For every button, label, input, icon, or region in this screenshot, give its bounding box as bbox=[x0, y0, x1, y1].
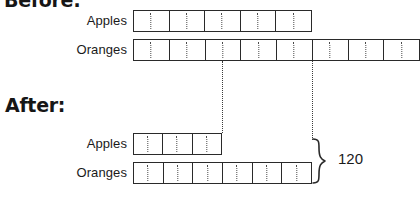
bar-segment bbox=[241, 11, 277, 31]
section-heading-after: After: bbox=[5, 94, 65, 116]
bar-segment bbox=[253, 163, 283, 183]
connector-line-left bbox=[222, 61, 223, 133]
bar-segment bbox=[384, 40, 419, 60]
diagram-canvas: Before: Apples Oranges After: Apples Ora… bbox=[0, 0, 420, 202]
bar-segment bbox=[223, 163, 253, 183]
bar-segment bbox=[241, 40, 277, 60]
row-label-after-apples: Apples bbox=[87, 136, 127, 151]
bar-segment bbox=[205, 11, 241, 31]
bar-segment bbox=[313, 40, 349, 60]
row-label-before-oranges: Oranges bbox=[76, 42, 127, 57]
bar-segment bbox=[170, 40, 206, 60]
bar-segment bbox=[193, 134, 221, 154]
bar-segment bbox=[170, 11, 206, 31]
row-label-after-oranges: Oranges bbox=[76, 165, 127, 180]
bar-segment bbox=[134, 11, 170, 31]
bar-segment bbox=[163, 134, 192, 154]
row-label-before-apples: Apples bbox=[87, 13, 127, 28]
bar-segment bbox=[193, 163, 223, 183]
bar-after-oranges bbox=[133, 162, 312, 184]
section-heading-before: Before: bbox=[4, 0, 80, 11]
bar-segment bbox=[134, 134, 163, 154]
bar-segment bbox=[282, 163, 311, 183]
bar-segment bbox=[206, 40, 242, 60]
brace-value-label: 120 bbox=[338, 150, 363, 167]
bar-segment bbox=[349, 40, 385, 60]
bar-segment bbox=[134, 163, 164, 183]
bar-after-apples bbox=[133, 133, 222, 155]
bar-segment bbox=[277, 40, 313, 60]
bar-segment bbox=[276, 11, 311, 31]
bar-segment bbox=[134, 40, 170, 60]
bar-before-apples bbox=[133, 10, 312, 32]
bar-before-oranges bbox=[133, 39, 420, 61]
brace-icon bbox=[312, 138, 334, 184]
connector-line-right bbox=[312, 61, 313, 140]
bar-segment bbox=[164, 163, 194, 183]
